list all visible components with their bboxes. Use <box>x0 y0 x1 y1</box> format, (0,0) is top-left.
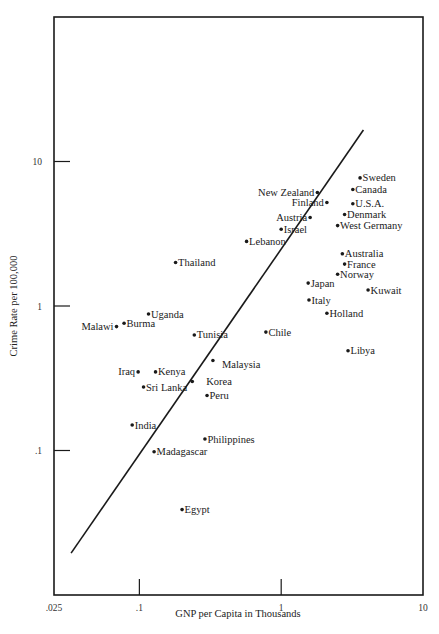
data-point: Finland <box>292 197 329 208</box>
data-points: SwedenCanadaNew ZealandFinlandU.S.A.Denm… <box>81 172 403 515</box>
point-marker <box>180 508 184 512</box>
data-point: Kuwait <box>366 285 401 296</box>
data-point: Libya <box>346 345 375 356</box>
point-label: Uganda <box>151 309 184 320</box>
point-marker <box>343 213 347 217</box>
point-marker <box>264 330 268 334</box>
point-label: Finland <box>292 197 325 208</box>
point-label: Malawi <box>81 321 113 332</box>
point-label: Philippines <box>207 434 254 445</box>
point-marker <box>351 188 355 192</box>
data-point: Peru <box>205 390 229 401</box>
scatter-chart: .025.1110 .1110 SwedenCanadaNew ZealandF… <box>0 0 439 634</box>
data-point: Holland <box>325 308 364 319</box>
point-marker <box>308 216 312 220</box>
point-marker <box>316 191 320 195</box>
regression-line <box>71 130 363 553</box>
y-axis-ticks: .1110 <box>33 157 71 456</box>
point-label: Italy <box>311 295 331 306</box>
data-point: Norway <box>336 269 375 280</box>
data-point: Kenya <box>154 366 186 377</box>
point-label: Sweden <box>363 172 397 183</box>
point-label: Libya <box>351 345 376 356</box>
data-point: West Germany <box>336 220 403 231</box>
data-point: Tunisia <box>193 329 229 340</box>
point-marker <box>325 201 329 205</box>
point-marker <box>193 333 197 337</box>
point-marker <box>130 423 134 427</box>
point-label: Iraq <box>118 366 136 377</box>
point-marker <box>343 262 347 266</box>
point-label: Australia <box>345 248 384 259</box>
point-marker <box>358 176 362 180</box>
point-marker <box>325 312 329 316</box>
fit-line <box>71 130 363 553</box>
point-label: Denmark <box>347 209 387 220</box>
point-label: Sri Lanka <box>146 382 187 393</box>
data-point: Thailand <box>174 257 216 268</box>
point-label: Japan <box>311 278 336 289</box>
point-marker <box>366 288 370 292</box>
point-label: U.S.A. <box>355 198 384 209</box>
data-point: Italy <box>307 295 331 306</box>
data-point: U.S.A. <box>351 198 384 209</box>
point-marker <box>152 450 156 454</box>
point-label: Tunisia <box>197 329 228 340</box>
point-label: Madagascar <box>157 446 208 457</box>
x-axis-title: GNP per Capita in Thousands <box>175 608 300 619</box>
point-label: Norway <box>340 269 375 280</box>
data-point: Malawi <box>81 321 118 332</box>
point-marker <box>147 312 151 316</box>
data-point: Madagascar <box>152 446 208 457</box>
point-label: Malaysia <box>222 359 261 370</box>
point-label: Chile <box>268 327 291 338</box>
point-label: Kuwait <box>371 285 402 296</box>
plot-border <box>54 17 423 595</box>
y-tick-label: 1 <box>37 302 42 312</box>
point-label: Kenya <box>158 366 186 377</box>
point-marker <box>154 370 158 374</box>
data-point: Denmark <box>343 209 387 220</box>
point-marker <box>211 359 215 363</box>
point-marker <box>245 240 249 244</box>
point-label: India <box>135 420 157 431</box>
point-marker <box>279 227 283 231</box>
point-marker <box>341 252 345 256</box>
point-label: Austria <box>276 212 307 223</box>
point-label: West Germany <box>340 220 403 231</box>
point-marker <box>122 321 126 325</box>
point-label: Israel <box>284 224 307 235</box>
data-point: Egypt <box>180 504 209 515</box>
data-point: Burma <box>122 318 155 329</box>
point-marker <box>346 349 350 353</box>
point-label: Lebanon <box>249 236 286 247</box>
data-point: Malaysia <box>211 359 261 371</box>
y-axis-title: Crime Rate per 100,000 <box>8 256 19 357</box>
data-point: Israel <box>279 224 307 235</box>
point-label: Thailand <box>178 257 216 268</box>
point-marker <box>205 394 209 398</box>
point-label: Burma <box>127 318 156 329</box>
data-point: Canada <box>351 184 387 195</box>
point-marker <box>307 298 311 302</box>
data-point: Lebanon <box>245 236 287 247</box>
data-point: Sri Lanka <box>142 382 188 393</box>
data-point: Sweden <box>358 172 396 183</box>
data-point: Austria <box>276 212 312 223</box>
data-point: Iraq <box>118 366 140 377</box>
data-point: Korea <box>190 376 232 387</box>
x-tick-label: 10 <box>418 603 428 613</box>
point-label: Egypt <box>185 504 210 515</box>
data-point: India <box>130 420 156 431</box>
data-point: Japan <box>306 278 335 289</box>
x-tick-label: .1 <box>136 603 143 613</box>
data-point: Australia <box>341 248 384 259</box>
point-marker <box>142 385 146 389</box>
point-marker <box>190 380 194 384</box>
point-marker <box>351 202 355 206</box>
x-tick-label: .025 <box>46 603 63 613</box>
data-point: Philippines <box>203 434 255 445</box>
point-marker <box>174 261 178 265</box>
point-marker <box>306 281 310 285</box>
point-marker <box>115 325 119 329</box>
